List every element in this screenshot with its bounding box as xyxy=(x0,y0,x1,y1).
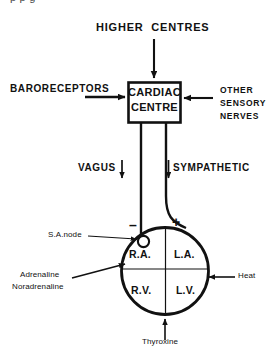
label-plus-sign: + xyxy=(172,215,180,229)
chamber-label-right-atrium: R.A. xyxy=(129,249,151,261)
cardiac-centre-label-line2: CENTRE xyxy=(128,101,181,113)
label-minus-sign: – xyxy=(129,218,137,232)
arrow-adrenaline xyxy=(72,264,125,278)
sa-node-leader xyxy=(88,236,136,239)
chamber-label-left-ventricle: L.V. xyxy=(176,285,195,297)
label-sa-node: S.A.node xyxy=(48,231,82,240)
label-sympathetic: SYMPATHETIC xyxy=(173,162,250,173)
label-adrenaline: Adrenaline xyxy=(20,271,59,280)
chamber-label-left-atrium: L.A. xyxy=(174,249,195,261)
label-vagus: VAGUS xyxy=(78,162,116,173)
heart-control-diagram: p p g xyxy=(0,0,278,352)
cardiac-centre-label-line1: CARDIAC xyxy=(128,86,181,98)
sa-node-circle xyxy=(138,236,149,247)
label-other-sensory-line3: NERVES xyxy=(220,112,259,122)
label-higher-centres: HIGHER CENTRES xyxy=(96,21,209,33)
label-other-sensory-line1: OTHER xyxy=(220,86,253,96)
diagram-canvas xyxy=(0,0,278,352)
label-noradrenaline: Noradrenaline xyxy=(12,283,64,292)
label-thyroxine: Thyroxine xyxy=(142,338,178,347)
label-baroreceptors: BARORECEPTORS xyxy=(10,83,109,94)
label-heat: Heat xyxy=(238,272,255,281)
chamber-label-right-ventricle: R.V. xyxy=(131,285,151,297)
label-other-sensory-line2: SENSORY xyxy=(220,99,266,109)
